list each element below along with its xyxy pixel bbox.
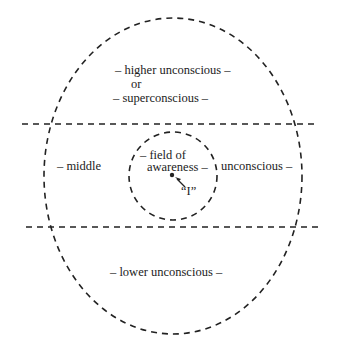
awareness-label: awareness – (147, 161, 208, 174)
middle-label: – middle (57, 160, 101, 173)
i-label: “I” (181, 185, 196, 198)
lower-unconscious-label: – lower unconscious – (110, 266, 222, 279)
or-label: or (131, 78, 141, 91)
superconscious-label: – superconscious – (113, 92, 208, 105)
unconscious-label: unconscious – (221, 160, 292, 173)
egg-diagram: – higher unconscious – or – superconscio… (0, 0, 339, 347)
higher-unconscious-label: – higher unconscious – (115, 64, 231, 77)
